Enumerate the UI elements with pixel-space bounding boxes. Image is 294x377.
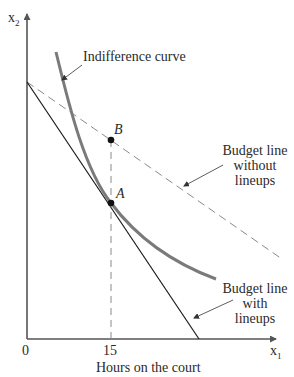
y-axis-label: x2	[8, 10, 20, 31]
budget-with-line2: with	[216, 296, 294, 311]
budget-without-line1: Budget line	[216, 143, 294, 158]
indifference-curve-pointer	[62, 65, 82, 80]
budget-with-line3: lineups	[216, 311, 294, 326]
point-b-label: B	[114, 122, 123, 137]
x-axis-label: x1	[270, 343, 282, 364]
budget-without-line2: without	[216, 158, 294, 173]
x-axis-sub: 1	[277, 351, 282, 361]
x-axis-title: Hours on the court	[96, 360, 201, 375]
indifference-curve-label: Indifference curve	[83, 49, 186, 64]
budget-without-line3: lineups	[216, 173, 294, 188]
origin-label: 0	[22, 343, 29, 358]
point-b	[108, 137, 115, 144]
budget-with-line1: Budget line	[216, 281, 294, 296]
y-axis-var: x	[8, 10, 15, 25]
budget-line-with-lineups	[27, 82, 199, 339]
budget-with-label: Budget line with lineups	[216, 281, 294, 326]
point-a	[108, 200, 115, 207]
x-tick-15: 15	[103, 343, 117, 358]
point-a-label: A	[116, 186, 125, 201]
x-axis-var: x	[270, 343, 277, 358]
budget-without-label: Budget line without lineups	[216, 143, 294, 188]
y-axis-sub: 2	[15, 18, 20, 28]
